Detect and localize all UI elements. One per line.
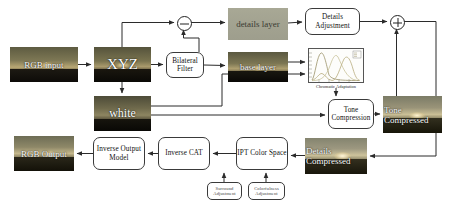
node-label: RGB input xyxy=(23,60,64,70)
node-rgb-output[interactable]: RGB Output xyxy=(14,136,74,171)
photo-ground xyxy=(14,157,74,171)
subtract-node[interactable] xyxy=(177,16,192,31)
edge-add-to-detailscompressed xyxy=(370,22,436,157)
node-label: Colorfulness Adjustment xyxy=(249,186,284,196)
edge-detailslayer-to-detailsadjustment xyxy=(288,22,302,23)
minus-icon xyxy=(178,17,191,30)
node-inverse-output-model[interactable]: Inverse Output Model xyxy=(93,137,145,170)
node-details-layer[interactable]: details layer xyxy=(228,8,288,40)
node-label: Surround Adjustment xyxy=(208,186,241,196)
plot-caption: Chromatic Adaptation xyxy=(316,84,356,89)
node-label: XYZ xyxy=(106,56,139,73)
node-details-adjustment[interactable]: Details Adjustment xyxy=(305,8,360,35)
node-label: Inverse Output Model xyxy=(94,145,144,162)
node-colorfulness-adjustment[interactable]: Colorfulness Adjustment xyxy=(248,182,285,200)
node-label: Tone Compressed xyxy=(383,105,442,125)
node-label: base layer xyxy=(239,62,277,72)
node-rgb-input[interactable]: RGB input xyxy=(10,47,78,82)
node-label: RGB Output xyxy=(20,149,68,159)
node-label: white xyxy=(108,106,137,121)
edge-bilateral-to-baselayer xyxy=(204,65,225,66)
photo-ground xyxy=(228,71,288,82)
plot-frame xyxy=(308,48,364,83)
node-label: Details Compressed xyxy=(305,146,367,166)
node-label: details layer xyxy=(235,19,281,29)
node-ipt-color-space[interactable]: IPT Color Space xyxy=(236,137,288,170)
node-tone-compressed[interactable]: Tone Compressed xyxy=(383,96,442,133)
node-xyz[interactable]: XYZ xyxy=(94,47,151,82)
plot-svg xyxy=(309,49,363,82)
edge-xyz-to-subtract xyxy=(122,23,174,48)
photo-ground xyxy=(10,69,78,82)
node-label: Bilateral Filter xyxy=(167,57,203,74)
node-base-layer[interactable]: base layer xyxy=(228,52,288,82)
node-label: Details Adjustment xyxy=(306,13,359,30)
add-node[interactable] xyxy=(390,15,405,30)
edge-bilateral-to-subtract xyxy=(184,30,200,52)
plus-icon xyxy=(391,16,404,29)
plot-series-y xyxy=(312,55,357,80)
node-bilateral-filter[interactable]: Bilateral Filter xyxy=(166,52,204,78)
node-label: Tone Compression xyxy=(329,106,373,123)
plot-series-x xyxy=(312,57,360,80)
diagram-canvas: RGB input XYZ white Bilateral Filter det… xyxy=(0,0,451,210)
node-label: Inverse CAT xyxy=(165,149,203,157)
node-tone-compression[interactable]: Tone Compression xyxy=(328,99,374,129)
chromatic-adaptation-plot: Chromatic Adaptation xyxy=(308,48,364,89)
node-inverse-cat[interactable]: Inverse CAT xyxy=(158,137,210,170)
node-surround-adjustment[interactable]: Surround Adjustment xyxy=(207,182,242,200)
node-white[interactable]: white xyxy=(94,96,151,131)
node-label: IPT Color Space xyxy=(237,149,286,157)
node-details-compressed[interactable]: Details Compressed xyxy=(305,138,367,174)
